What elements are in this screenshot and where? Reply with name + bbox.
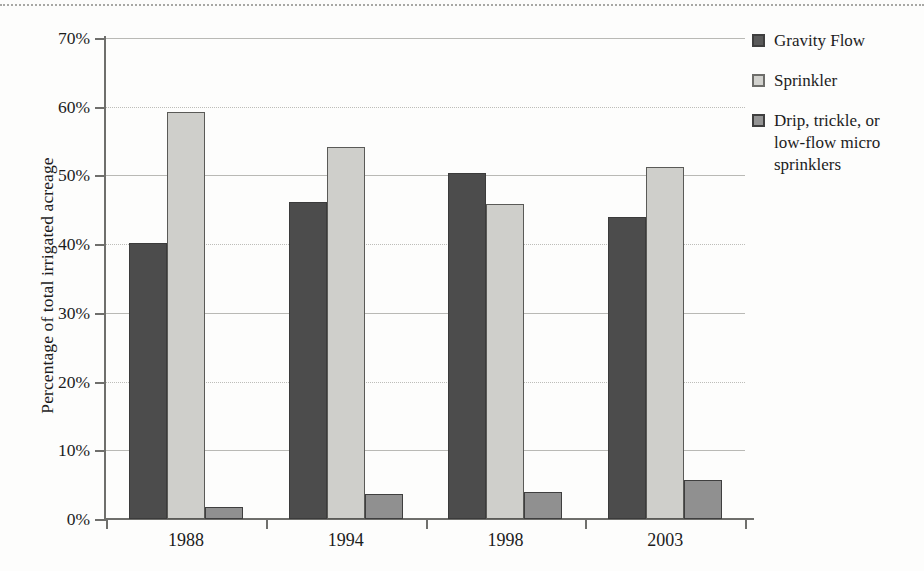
legend-swatch-icon	[752, 114, 765, 127]
legend-swatch-icon	[752, 74, 765, 87]
legend-item-1[interactable]: Sprinkler	[752, 70, 920, 92]
bar-1998-series-0	[448, 173, 486, 519]
y-axis-tick	[95, 175, 104, 177]
x-axis-tick-label-2003: 2003	[600, 530, 730, 551]
x-axis-tick-label-1994: 1994	[281, 530, 411, 551]
y-axis-tick	[95, 313, 104, 315]
bar-1994-series-2	[365, 494, 403, 519]
x-axis-tick	[745, 519, 747, 529]
y-axis-tick-label: 60%	[32, 96, 90, 117]
y-axis-tick	[95, 244, 104, 246]
bar-2003-series-0	[608, 217, 646, 519]
chart-legend: Gravity FlowSprinklerDrip, trickle, or l…	[752, 30, 920, 194]
y-axis-tick	[95, 107, 104, 109]
bar-1988-series-0	[129, 243, 167, 519]
legend-item-label: Sprinkler	[774, 70, 837, 92]
bar-1998-series-2	[524, 492, 562, 519]
gridline	[106, 107, 745, 108]
gridline	[106, 38, 745, 39]
bar-chart-figure: Percentage of total irrigated acreage 0%…	[0, 0, 924, 571]
x-axis-tick	[266, 519, 268, 529]
x-axis-tick	[585, 519, 587, 529]
y-axis-tick-labels: 0%10%20%30%40%50%60%70%	[28, 0, 90, 571]
y-axis-tick	[95, 38, 104, 40]
y-axis-tick-label: 70%	[32, 28, 90, 49]
x-axis-tick-label-1988: 1988	[121, 530, 251, 551]
legend-item-label: Drip, trickle, or low-flow micro sprinkl…	[774, 110, 914, 176]
y-axis-tick-label: 10%	[32, 440, 90, 461]
legend-swatch-icon	[752, 34, 765, 47]
bar-2003-series-2	[684, 480, 722, 519]
y-axis-tick-label: 30%	[32, 302, 90, 323]
legend-item-label: Gravity Flow	[774, 30, 865, 52]
bar-1994-series-1	[327, 147, 365, 519]
y-axis-tick	[95, 382, 104, 384]
x-axis-tick-label-1998: 1998	[440, 530, 570, 551]
x-axis-tick	[106, 519, 108, 529]
bar-1988-series-2	[205, 507, 243, 519]
y-axis-tick-label: 40%	[32, 234, 90, 255]
y-axis-tick-label: 50%	[32, 165, 90, 186]
bar-2003-series-1	[646, 167, 684, 520]
bar-1998-series-1	[486, 204, 524, 519]
bar-1988-series-1	[167, 112, 205, 519]
y-axis-tick-label: 0%	[32, 509, 90, 530]
legend-item-2[interactable]: Drip, trickle, or low-flow micro sprinkl…	[752, 110, 920, 176]
bar-1994-series-0	[289, 202, 327, 519]
legend-item-0[interactable]: Gravity Flow	[752, 30, 920, 52]
y-axis-tick	[95, 519, 104, 521]
y-axis-tick	[95, 450, 104, 452]
x-axis-tick	[426, 519, 428, 529]
y-axis-tick-label: 20%	[32, 371, 90, 392]
plot-area	[106, 38, 745, 519]
